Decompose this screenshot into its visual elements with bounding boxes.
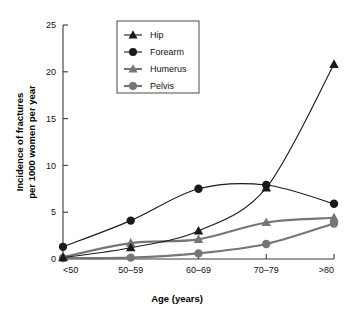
- x-tick-label: 60–69: [186, 265, 211, 275]
- x-tick-label: 50–59: [118, 265, 143, 275]
- y-tick-label: 5: [51, 207, 56, 217]
- chart-legend: HipForearmHumerusPelvis: [117, 21, 199, 93]
- data-point-circle: [262, 181, 270, 189]
- legend-label-humerus: Humerus: [150, 64, 187, 74]
- legend-label-hip: Hip: [150, 30, 164, 40]
- y-axis-title-line2: per 1000 women per year: [26, 85, 37, 199]
- data-point-circle: [129, 82, 137, 90]
- data-point-circle: [194, 249, 202, 257]
- y-tick-label: 15: [46, 114, 56, 124]
- y-tick-label: 20: [46, 67, 56, 77]
- x-axis-title: Age (years): [151, 293, 203, 304]
- data-point-circle: [59, 243, 67, 251]
- data-point-circle: [194, 185, 202, 193]
- legend-label-pelvis: Pelvis: [150, 81, 175, 91]
- data-point-circle: [262, 240, 270, 248]
- x-tick-label: 70–79: [254, 265, 279, 275]
- data-point-circle: [129, 48, 137, 56]
- x-tick-label: <50: [63, 265, 78, 275]
- y-tick-label: 0: [51, 254, 56, 264]
- data-point-circle: [127, 253, 135, 261]
- data-point-circle: [127, 216, 135, 224]
- y-tick-label: 25: [46, 20, 56, 30]
- y-axis-title-line1: Incidence of fractures: [14, 93, 25, 192]
- legend-item-forearm[interactable]: Forearm: [124, 47, 184, 57]
- y-tick-label: 10: [46, 161, 56, 171]
- legend-label-forearm: Forearm: [150, 47, 184, 57]
- fracture-incidence-chart: 0510152025 <5050–5960–6970–79>80 Age (ye…: [0, 0, 354, 316]
- data-point-circle: [330, 200, 338, 208]
- x-tick-label: >80: [319, 265, 334, 275]
- chart-canvas: 0510152025 <5050–5960–6970–79>80 Age (ye…: [0, 0, 354, 316]
